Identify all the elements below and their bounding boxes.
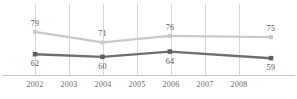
value-label-upper-2002: 79 [31, 19, 39, 28]
x-tick-label-2008: 2008 [231, 80, 248, 90]
value-label-upper-2009: 75 [267, 24, 275, 33]
series-canvas [0, 0, 297, 99]
x-tick-label-2005: 2005 [129, 80, 146, 90]
value-label-lower-2004: 60 [98, 62, 106, 71]
value-label-upper-2006: 76 [166, 23, 174, 32]
x-tick-label-2007: 2007 [197, 80, 214, 90]
x-tick-label-2004: 2004 [95, 80, 112, 90]
x-tick-label-2003: 2003 [61, 80, 78, 90]
value-label-lower-2006: 64 [166, 57, 174, 66]
value-label-lower-2009: 59 [267, 63, 275, 72]
x-tick-label-2002: 2002 [27, 80, 44, 90]
value-label-upper-2004: 71 [98, 29, 106, 38]
plot-area: 79 71 76 75 62 60 64 59 [0, 0, 297, 99]
line-chart: 79 71 76 75 62 60 64 59 2002 2003 2004 2… [0, 0, 297, 99]
line-upper-series [35, 32, 271, 43]
x-tick-label-2006: 2006 [163, 80, 180, 90]
line-lower-series [35, 52, 271, 59]
value-label-lower-2002: 62 [31, 59, 39, 68]
